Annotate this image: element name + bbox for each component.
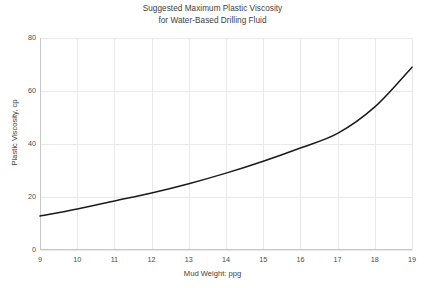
x-tick-label: 9 (27, 256, 53, 264)
y-tick-label: 80 (10, 34, 36, 42)
x-axis-title: Mud Weight: ppg (0, 269, 425, 278)
x-tick-label: 12 (139, 256, 165, 264)
x-tick-label: 15 (250, 256, 276, 264)
series-line-plastic-viscosity (40, 67, 412, 216)
plot-area (40, 38, 412, 250)
chart-title-line-1: Suggested Maximum Plastic Viscosity (0, 3, 425, 15)
x-tick-label: 16 (287, 256, 313, 264)
chart-title-line-2: for Water-Based Drilling Fluid (0, 15, 425, 27)
chart-title: Suggested Maximum Plastic Viscosity for … (0, 3, 425, 26)
x-tick-label: 11 (101, 256, 127, 264)
x-tick-label: 13 (176, 256, 202, 264)
x-tick-label: 17 (325, 256, 351, 264)
data-series-layer (40, 38, 412, 250)
x-tick-label: 14 (213, 256, 239, 264)
y-axis-title: Plastic Viscosity, cp (10, 86, 19, 180)
x-tick-label: 18 (362, 256, 388, 264)
y-tick-label: 0 (10, 246, 36, 254)
y-tick-label: 20 (10, 193, 36, 201)
x-tick-label: 19 (399, 256, 425, 264)
x-tick-label: 10 (64, 256, 90, 264)
chart-figure: Suggested Maximum Plastic Viscosity for … (0, 0, 425, 288)
x-axis-tick-labels: 910111213141516171819 (0, 256, 425, 268)
